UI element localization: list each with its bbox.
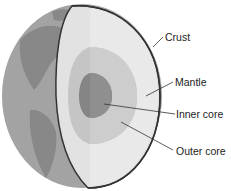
earth-diagram	[0, 0, 231, 191]
label-outer-core: Outer core	[176, 145, 226, 157]
label-mantle: Mantle	[175, 76, 207, 88]
label-crust: Crust	[165, 31, 190, 43]
label-inner-core: Inner core	[176, 108, 223, 120]
leader-line-crust	[153, 37, 163, 47]
